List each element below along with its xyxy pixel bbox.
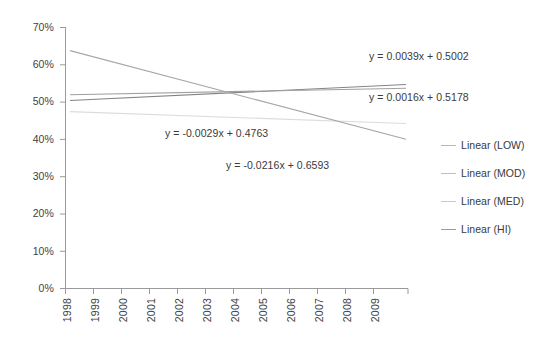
legend-swatch-icon bbox=[441, 173, 456, 174]
legend-label: Linear (MED) bbox=[461, 195, 524, 207]
y-tick-label: 40% bbox=[20, 133, 54, 145]
x-tick-label: 2007 bbox=[313, 298, 325, 322]
x-tick-label: 2009 bbox=[369, 298, 381, 322]
y-tick-label: 50% bbox=[20, 95, 54, 107]
x-tick-label: 2005 bbox=[257, 298, 269, 322]
trendline-low bbox=[70, 85, 406, 101]
legend-label: Linear (HI) bbox=[461, 223, 511, 235]
legend-item-linear-hi[interactable]: Linear (HI) bbox=[441, 215, 537, 243]
equation-label-med: y = -0.0029x + 0.4763 bbox=[165, 127, 268, 139]
x-tick-label: 1998 bbox=[61, 298, 73, 322]
legend-label: Linear (MOD) bbox=[461, 167, 525, 179]
y-tick-label: 30% bbox=[20, 170, 54, 182]
equation-label-mod: y = 0.0016x + 0.5178 bbox=[369, 91, 469, 103]
x-tick-label: 2004 bbox=[229, 298, 241, 322]
legend-swatch-icon bbox=[441, 145, 456, 146]
chart-legend: Linear (LOW) Linear (MOD) Linear (MED) L… bbox=[441, 131, 537, 243]
x-tick-label: 2006 bbox=[285, 298, 297, 322]
x-axis-ticks bbox=[66, 289, 409, 295]
equation-label-hi: y = -0.0216x + 0.6593 bbox=[226, 159, 329, 171]
y-tick-label: 60% bbox=[20, 58, 54, 70]
trendline-med bbox=[70, 112, 406, 124]
y-tick-label: 20% bbox=[20, 207, 54, 219]
trendline-mod bbox=[70, 88, 406, 95]
legend-item-linear-mod[interactable]: Linear (MOD) bbox=[441, 159, 537, 187]
legend-swatch-icon bbox=[441, 201, 456, 202]
y-tick-label: 10% bbox=[20, 245, 54, 257]
chart-container: 70% 60% 50% 40% 30% 20% 10% 0% 1998 1999… bbox=[0, 0, 537, 345]
trendline-hi bbox=[70, 51, 406, 140]
y-tick-label: 70% bbox=[20, 21, 54, 33]
equation-label-low: y = 0.0039x + 0.5002 bbox=[369, 50, 469, 62]
x-tick-label: 2003 bbox=[201, 298, 213, 322]
legend-label: Linear (LOW) bbox=[461, 139, 525, 151]
y-axis-ticks bbox=[60, 28, 66, 289]
legend-swatch-icon bbox=[441, 229, 456, 230]
x-tick-label: 2001 bbox=[145, 298, 157, 322]
x-tick-label: 1999 bbox=[89, 298, 101, 322]
legend-item-linear-low[interactable]: Linear (LOW) bbox=[441, 131, 537, 159]
legend-item-linear-med[interactable]: Linear (MED) bbox=[441, 187, 537, 215]
x-tick-label: 2000 bbox=[117, 298, 129, 322]
x-tick-label: 2008 bbox=[341, 298, 353, 322]
x-tick-label: 2002 bbox=[173, 298, 185, 322]
y-tick-label: 0% bbox=[20, 282, 54, 294]
